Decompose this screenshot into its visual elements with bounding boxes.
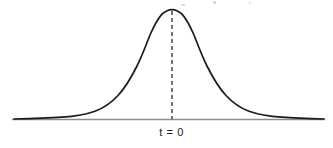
- bell-curve-figure: t = 0: [0, 0, 333, 148]
- center-tick-label: t = 0: [0, 127, 333, 138]
- center-tick-label-text: t = 0: [159, 127, 184, 138]
- bell-curve-path: [14, 10, 324, 119]
